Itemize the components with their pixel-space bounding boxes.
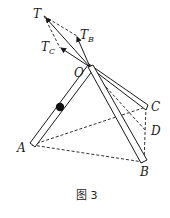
label-d: D bbox=[150, 124, 161, 138]
rod-ob bbox=[88, 65, 147, 163]
label-a: A bbox=[16, 141, 26, 155]
ball-icon bbox=[56, 103, 64, 111]
figure-caption: 图 3 bbox=[76, 189, 98, 202]
dashed-line-cb bbox=[144, 107, 146, 162]
label-b: B bbox=[139, 165, 149, 179]
label-tb: TB bbox=[80, 28, 94, 44]
label-o: O bbox=[74, 66, 84, 80]
diagram-canvas: T TB TC O A C D B 图 3 bbox=[0, 0, 170, 218]
physics-diagram: T TB TC O A C D B 图 3 bbox=[0, 0, 170, 218]
dashed-line-ab bbox=[32, 145, 143, 162]
label-c: C bbox=[151, 100, 160, 114]
label-tc: TC bbox=[41, 40, 55, 56]
vector-t-arrow bbox=[46, 18, 90, 67]
label-t: T bbox=[33, 7, 42, 21]
rod-oc bbox=[89, 64, 148, 110]
